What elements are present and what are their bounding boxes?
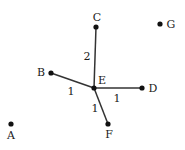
node-f-dot [105,121,110,126]
node-c-label: C [93,11,101,24]
nodes-group [8,21,162,126]
node-f-label: F [105,128,113,141]
node-g-label: G [167,18,176,31]
edge-weight-e-c: 2 [84,50,91,63]
edge-weight-e-d: 1 [114,92,121,105]
node-d-dot [139,85,144,90]
node-a-dot [8,121,13,126]
graph-diagram: 2111 ABCDEFG [0,0,185,150]
edge-e-c [94,27,96,88]
edge-weight-e-f: 1 [92,102,99,115]
node-a-label: A [6,129,16,142]
node-d-label: D [149,82,158,95]
node-c-dot [93,24,98,29]
edge-weight-e-b: 1 [68,85,75,98]
node-labels-group: ABCDEFG [6,11,175,142]
node-e-label: E [98,74,106,87]
node-b-label: B [37,66,45,79]
node-g-dot [157,21,162,26]
node-b-dot [48,70,53,75]
node-e-dot [91,85,96,90]
